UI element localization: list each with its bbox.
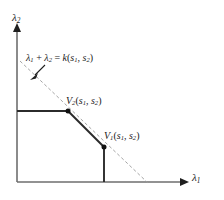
v2-paren-close: ) bbox=[98, 95, 101, 106]
vertex-v2-dot bbox=[66, 109, 71, 114]
x-axis-label-subscript: 1 bbox=[197, 177, 201, 185]
vertex-v1-label: V1(s1, s2) bbox=[104, 131, 140, 141]
constraint-paren-close: ) bbox=[90, 52, 93, 63]
frontier-path-group bbox=[17, 111, 104, 182]
constraint-plus: + bbox=[34, 52, 45, 63]
frontier-diagonal-segment bbox=[68, 111, 104, 147]
pareto-frontier-diagram: λ2 λ1 λ1 + λ2 = k(s1, s2) V2(s1, s2) V1(… bbox=[0, 0, 224, 200]
constraint-equals: = bbox=[52, 52, 63, 63]
diagram-canvas bbox=[0, 0, 224, 200]
y-axis-label-subscript: 2 bbox=[17, 17, 21, 25]
constraint-dashed-line bbox=[20, 61, 148, 183]
x-axis-label: λ1 bbox=[192, 172, 200, 183]
y-axis-label: λ2 bbox=[12, 12, 20, 23]
v1-paren-close: ) bbox=[136, 130, 139, 141]
vertex-v2-label: V2(s1, s2) bbox=[66, 96, 102, 106]
constraint-equation-label: λ1 + λ2 = k(s1, s2) bbox=[26, 53, 93, 63]
x-axis-arrowhead bbox=[180, 178, 189, 186]
vertex-v1-dot bbox=[102, 145, 107, 150]
